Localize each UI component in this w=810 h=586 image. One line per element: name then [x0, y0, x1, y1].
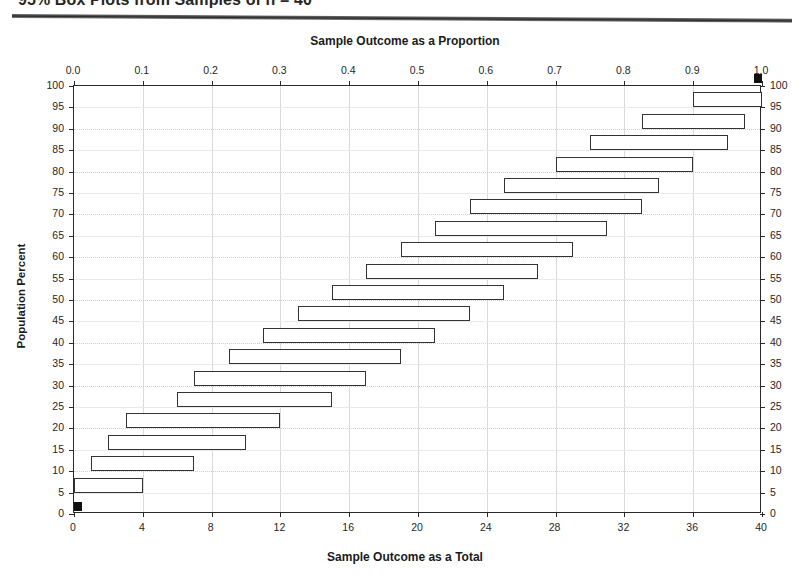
box-plot-row: [74, 114, 760, 129]
tick-mark-left: [69, 300, 74, 301]
tick-label-right: 90: [770, 122, 804, 134]
tick-label-left: 10: [28, 464, 64, 476]
tick-mark-right: [760, 321, 765, 322]
tick-label-bottom: 28: [549, 521, 561, 533]
tick-label-right: 20: [770, 421, 804, 433]
box-plot-interval: [194, 371, 366, 386]
tick-mark-right: [760, 150, 765, 151]
tick-mark-left: [69, 428, 74, 429]
box-plot-row: [74, 285, 760, 300]
tick-label-left: 50: [28, 293, 64, 305]
bottom-axis-title: Sample Outcome as a Total: [0, 550, 810, 564]
box-plot-row: [74, 349, 760, 364]
box-plot-row: [74, 264, 760, 279]
tick-mark-left: [69, 471, 74, 472]
box-plot-interval: [126, 413, 281, 428]
box-plot-row: [74, 306, 760, 321]
tick-label-bottom: 12: [274, 521, 286, 533]
horizontal-gridline: [74, 450, 760, 451]
tick-mark-left: [69, 129, 74, 130]
page-title: 95% Box Plots from Samples of n = 40: [18, 0, 312, 9]
tick-label-bottom: 24: [480, 521, 492, 533]
tick-mark-left: [69, 214, 74, 215]
tick-label-top: 0.5: [410, 64, 425, 76]
tick-mark-right: [760, 471, 765, 472]
tick-mark-right: [760, 300, 765, 301]
tick-mark-left: [69, 407, 74, 408]
tick-mark-left: [69, 150, 74, 151]
horizontal-gridline: [74, 321, 760, 322]
tick-label-left: 5: [28, 486, 64, 498]
tick-mark-left: [69, 193, 74, 194]
tick-label-top: 0.6: [478, 64, 493, 76]
horizontal-gridline: [74, 364, 760, 365]
tick-mark-right: [760, 386, 765, 387]
tick-mark-left: [69, 279, 74, 280]
box-plot-row: [74, 178, 760, 193]
tick-label-left: 90: [28, 122, 64, 134]
horizontal-gridline: [74, 214, 760, 215]
tick-label-top: 0.4: [341, 64, 356, 76]
tick-label-right: 95: [770, 100, 804, 112]
tick-mark-right: [760, 129, 765, 130]
tick-label-left: 35: [28, 357, 64, 369]
box-plot-row: [74, 221, 760, 236]
box-plot-interval: [229, 349, 401, 364]
box-plot-row: [74, 157, 760, 172]
horizontal-gridline: [74, 343, 760, 344]
tick-label-bottom: 20: [411, 521, 423, 533]
tick-label-bottom: 32: [618, 521, 630, 533]
box-plot-row: [74, 456, 760, 471]
tick-label-left: 70: [28, 207, 64, 219]
tick-label-left: 100: [28, 79, 64, 91]
tick-label-bottom: 36: [686, 521, 698, 533]
horizontal-gridline: [74, 428, 760, 429]
tick-mark-left: [69, 257, 74, 258]
tick-label-right: 55: [770, 272, 804, 284]
tick-label-left: 85: [28, 143, 64, 155]
tick-mark-right: [760, 343, 765, 344]
tick-label-left: 80: [28, 165, 64, 177]
box-plot-row: [74, 242, 760, 257]
tick-label-right: 65: [770, 229, 804, 241]
box-plot-interval: [74, 478, 143, 493]
horizontal-gridline: [74, 193, 760, 194]
tick-label-right: 30: [770, 379, 804, 391]
tick-label-left: 25: [28, 400, 64, 412]
tick-label-right: 15: [770, 443, 804, 455]
horizontal-gridline: [74, 172, 760, 173]
box-plot-row: [74, 371, 760, 386]
tick-mark-right: [760, 172, 765, 173]
horizontal-gridline: [74, 471, 760, 472]
box-plot-interval: [298, 306, 470, 321]
tick-label-left: 15: [28, 443, 64, 455]
tick-label-right: 85: [770, 143, 804, 155]
tick-mark-right: [760, 514, 765, 515]
box-plot-interval: [366, 264, 538, 279]
tick-label-right: 60: [770, 250, 804, 262]
tick-label-right: 0: [770, 507, 804, 519]
tick-label-left: 30: [28, 379, 64, 391]
tick-label-right: 80: [770, 165, 804, 177]
tick-label-right: 70: [770, 207, 804, 219]
tick-label-right: 50: [770, 293, 804, 305]
tick-label-right: 40: [770, 336, 804, 348]
tick-label-right: 10: [770, 464, 804, 476]
tick-mark-left: [69, 364, 74, 365]
tick-mark-left: [69, 172, 74, 173]
tick-label-top: 0.2: [203, 64, 218, 76]
tick-mark-left: [69, 343, 74, 344]
box-plot-interval: [263, 328, 435, 343]
tick-label-top: 0.9: [685, 64, 700, 76]
tick-label-right: 35: [770, 357, 804, 369]
tick-mark-right: [760, 214, 765, 215]
plot-area: [73, 85, 761, 513]
tick-mark-right: [760, 107, 765, 108]
horizontal-gridline: [74, 386, 760, 387]
box-plot-row: [74, 328, 760, 343]
box-plot-interval: [332, 285, 504, 300]
tick-label-top: 0.8: [616, 64, 631, 76]
tick-label-left: 60: [28, 250, 64, 262]
horizontal-gridline: [74, 407, 760, 408]
tick-label-left: 55: [28, 272, 64, 284]
